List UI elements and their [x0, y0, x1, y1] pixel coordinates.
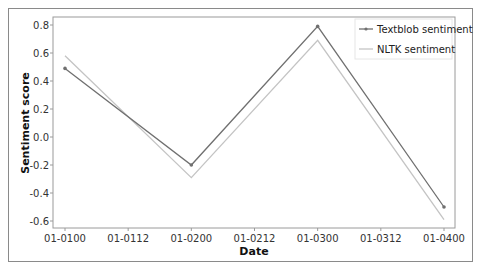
- x-tick-label: 01-0212: [234, 233, 276, 244]
- x-tick-label: 01-0112: [107, 233, 149, 244]
- x-tick-label: 01-0312: [360, 233, 402, 244]
- x-axis-title: Date: [239, 245, 268, 258]
- x-tick-label: 01-0200: [170, 233, 212, 244]
- line-chart: 0.80.60.40.20.0-0.2-0.4-0.6 01-010001-01…: [0, 0, 479, 271]
- y-tick-label: -0.2: [29, 160, 49, 171]
- x-tick-label: 01-0300: [297, 233, 339, 244]
- data-point-marker: [190, 163, 194, 167]
- legend-label-nltk: NLTK sentiment: [377, 44, 455, 55]
- y-axis: 0.80.60.40.20.0-0.2-0.4-0.6: [29, 20, 53, 227]
- y-tick-label: -0.4: [29, 188, 49, 199]
- data-point-marker: [442, 205, 446, 209]
- legend-label-textblob: Textblob sentiment: [376, 24, 473, 35]
- data-point-marker: [316, 25, 320, 29]
- y-tick-label: -0.6: [29, 216, 49, 227]
- y-tick-label: 0.4: [33, 76, 49, 87]
- y-axis-title: Sentiment score: [19, 72, 32, 174]
- y-tick-label: 0.0: [33, 132, 49, 143]
- y-tick-label: 0.8: [33, 20, 49, 31]
- x-tick-label: 01-0100: [44, 233, 86, 244]
- y-tick-label: 0.6: [33, 48, 49, 59]
- y-tick-label: 0.2: [33, 104, 49, 115]
- data-point-marker: [63, 67, 67, 71]
- textblob-legend-marker-icon: [364, 27, 367, 30]
- nltk-sentiment-line: [65, 40, 444, 219]
- x-axis: 01-010001-011201-020001-021201-030001-03…: [44, 228, 465, 244]
- x-tick-label: 01-0400: [423, 233, 465, 244]
